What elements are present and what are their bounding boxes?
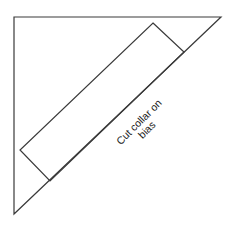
- bias-label-line1: Cut collar on: [114, 97, 164, 147]
- bias-label: Cut collar on bias: [114, 97, 172, 155]
- collar-bias-diagram: Cut collar on bias: [0, 0, 229, 226]
